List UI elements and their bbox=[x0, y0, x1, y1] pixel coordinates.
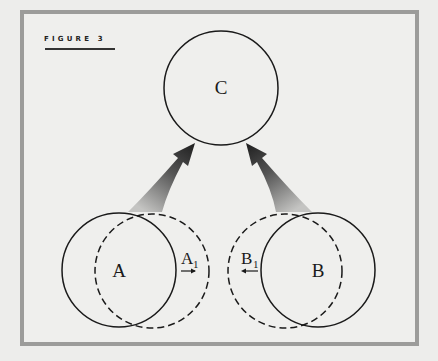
label-b: B bbox=[312, 260, 325, 281]
figure-canvas: FIGURE 3 C bbox=[0, 0, 438, 361]
label-a1-subscript: 1 bbox=[193, 258, 199, 270]
node-b: B bbox=[261, 213, 375, 327]
label-a: A bbox=[112, 260, 126, 281]
label-b1: B bbox=[241, 249, 252, 268]
arrow-up-left-icon bbox=[246, 143, 312, 212]
diagram: C A B A 1 bbox=[0, 0, 438, 361]
arrow-b-to-c bbox=[246, 143, 312, 212]
node-b1: B 1 bbox=[241, 249, 259, 274]
label-c: C bbox=[215, 77, 228, 98]
arrow-a-to-c bbox=[128, 143, 195, 212]
arrow-up-right-icon bbox=[128, 143, 195, 212]
node-c: C bbox=[164, 31, 278, 145]
node-a: A bbox=[62, 213, 176, 327]
node-a1: A 1 bbox=[181, 249, 199, 274]
label-b1-subscript: 1 bbox=[253, 258, 259, 270]
